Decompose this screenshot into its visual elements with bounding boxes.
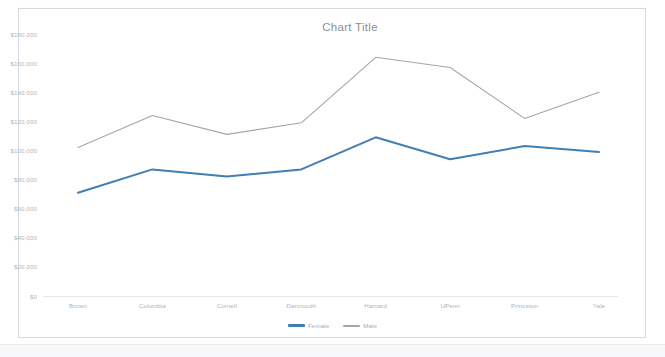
legend-label: Female <box>308 322 329 329</box>
page-bottom-edge <box>0 344 665 357</box>
series-lines <box>0 0 646 347</box>
line-series-female <box>78 137 599 192</box>
legend-item-male[interactable]: Male <box>343 322 377 329</box>
legend-label: Male <box>363 322 377 329</box>
legend-swatch-icon <box>343 325 360 327</box>
chart-legend: FemaleMale <box>0 322 665 329</box>
legend-swatch-icon <box>288 324 305 327</box>
plot-area: $0$20,000$40,000$60,000$80,000$100,000$1… <box>0 0 646 347</box>
line-series-male <box>78 57 599 147</box>
legend-item-female[interactable]: Female <box>288 322 329 329</box>
